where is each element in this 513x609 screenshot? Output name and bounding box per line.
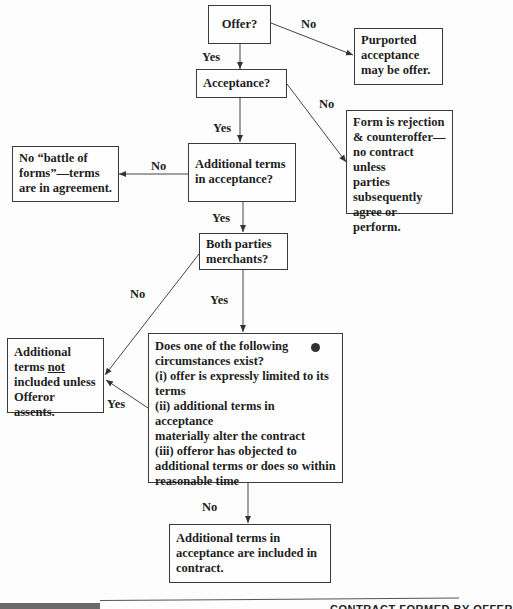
edge-label-merchants-no: No [130, 287, 145, 301]
node-not-included-terms: terms [14, 360, 48, 374]
node-circumstances-line: (i) offer is expressly limited to its [155, 369, 336, 384]
node-included-line: Additional terms in [176, 531, 324, 546]
node-rejection-line: subsequently [353, 190, 446, 205]
node-purported-line: acceptance [361, 48, 436, 63]
node-additional-terms: Additional terms in acceptance? [188, 143, 296, 202]
node-purported-line: Purported [361, 33, 436, 48]
node-both-merchants: Both parties merchants? [199, 233, 288, 270]
node-offer-text: Offer? [222, 17, 257, 31]
edge-label-circumstances-no: No [202, 500, 217, 514]
node-circumstances-line: terms [155, 384, 336, 399]
node-acceptance: Acceptance? [196, 69, 287, 98]
node-circumstances-line: (ii) additional terms in acceptance [155, 399, 336, 429]
ink-dot-mark [311, 343, 320, 352]
node-terms-included: Additional terms in acceptance are inclu… [169, 524, 331, 583]
node-terms-not-included: Additional terms not included unless Off… [7, 338, 104, 413]
node-circumstances-line: reasonable time [155, 474, 336, 489]
node-rejection-line: no contract unless [353, 145, 446, 175]
edge-label-offer-yes: Yes [202, 50, 220, 64]
edge-label-acceptance-no: No [319, 97, 334, 111]
node-not-included-not-underlined: not [48, 360, 65, 374]
node-no-battle-line: No “battle of [19, 151, 112, 166]
node-offer: Offer? [208, 5, 271, 44]
node-circumstances: Does one of the following circumstances … [148, 333, 343, 483]
node-both-merchants-line: Both parties [206, 237, 281, 252]
node-no-battle-line: are in agreement. [19, 181, 112, 196]
node-purported-acceptance: Purported acceptance may be offer. [354, 28, 443, 85]
node-no-battle-of-forms: No “battle of forms”—terms are in agreem… [12, 146, 119, 202]
edge-label-circumstances-yes: Yes [107, 397, 125, 411]
node-rejection-line: Form is rejection [353, 115, 446, 130]
node-circumstances-line: Does one of the following [155, 339, 336, 354]
node-rejection-line: agree or perform. [353, 205, 446, 235]
node-circumstances-line: materially alter the contract [155, 429, 336, 444]
node-rejection-counteroffer: Form is rejection & counteroffer— no con… [346, 110, 453, 214]
node-no-battle-line: forms”—terms [19, 166, 112, 181]
node-included-line: acceptance are included in [176, 546, 324, 561]
node-not-included-line: Offeror assents. [14, 390, 97, 420]
node-circumstances-line: additional terms or does so within [155, 459, 336, 474]
edge-label-merchants-yes: Yes [210, 293, 228, 307]
footer-running-head: CONTRACT FORMED BY OFFER [330, 603, 513, 609]
node-not-included-line: included unless [14, 375, 97, 390]
node-both-merchants-line: merchants? [206, 252, 281, 267]
node-included-line: contract. [176, 561, 324, 576]
node-circumstances-line: circumstances exist? [155, 354, 336, 369]
node-not-included-line: Additional [14, 345, 97, 360]
edge-label-additional-no: No [151, 159, 166, 173]
node-rejection-line: parties [353, 175, 446, 190]
node-additional-terms-line: Additional terms [195, 157, 289, 172]
node-purported-line: may be offer. [361, 63, 436, 78]
node-circumstances-line: (iii) offeror has objected to [155, 444, 336, 459]
node-additional-terms-line: in acceptance? [195, 172, 289, 187]
edge-label-offer-no: No [301, 17, 316, 31]
edge-label-acceptance-yes: Yes [213, 121, 231, 135]
footer-bar [0, 603, 100, 609]
node-acceptance-text: Acceptance? [203, 76, 270, 90]
node-rejection-line: & counteroffer— [353, 130, 446, 145]
edge-label-additional-yes: Yes [212, 211, 230, 225]
node-not-included-line: terms not [14, 360, 97, 375]
